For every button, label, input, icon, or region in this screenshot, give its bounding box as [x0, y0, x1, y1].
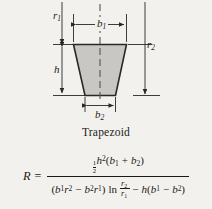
- den-ln: ln: [105, 183, 119, 195]
- b2-label: b2: [95, 108, 104, 122]
- num-paren-close: ): [140, 154, 144, 166]
- resistance-formula: R = 1 2 h2(b1+b2) (b1r2−b2r1)ln r2 r1: [0, 144, 212, 209]
- den-minus-1: −: [72, 183, 84, 195]
- r2-label: r2: [147, 38, 155, 52]
- formula-numerator: 1 2 h2(b1+b2): [87, 154, 150, 176]
- formula-denominator: (b1r2−b2r1)ln r2 r1 −h(b1−b2): [47, 177, 189, 199]
- num-plus: +: [119, 154, 131, 166]
- den-log-denominator: r1: [120, 189, 128, 199]
- den-log-numerator: r2: [120, 179, 128, 189]
- den-minus-2: −: [129, 183, 141, 195]
- den-log-ratio: r2 r1: [120, 179, 128, 199]
- h-label: h: [54, 62, 60, 76]
- den-minus-3: −: [160, 183, 172, 195]
- b1-label: b1: [95, 17, 108, 31]
- r1-label: r1: [53, 9, 61, 23]
- one-half: 1 2: [93, 160, 96, 175]
- formula-lhs: R: [23, 169, 35, 184]
- figure-caption: Trapezoid: [0, 126, 212, 138]
- trapezoid-figure: r1 r2 b1 b2 h Trapezoid: [0, 0, 212, 145]
- formula-equals: =: [35, 169, 48, 184]
- den-paren-close-2: ): [181, 183, 185, 195]
- formula-fraction: 1 2 h2(b1+b2) (b1r2−b2r1)ln r2 r1 −h(b1−…: [47, 154, 189, 199]
